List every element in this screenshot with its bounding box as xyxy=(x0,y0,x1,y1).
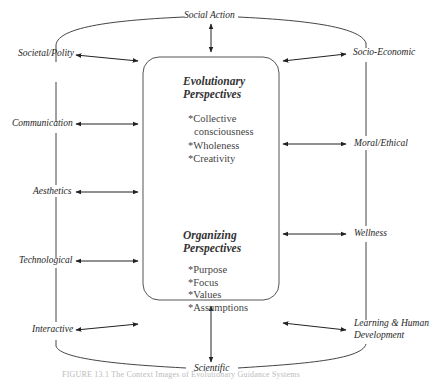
label-communication: Communication xyxy=(12,118,73,128)
outer-loop-top-right xyxy=(238,17,366,48)
title-line: Perspectives xyxy=(183,88,245,101)
list-item: *Creativity xyxy=(188,153,254,166)
organizing-perspectives-title: Organizing Perspectives xyxy=(183,229,241,255)
label-interactive: Interactive xyxy=(32,324,73,334)
label-moral-ethical: Moral/Ethical xyxy=(354,138,408,148)
label-aesthetics: Aesthetics xyxy=(33,186,72,196)
title-line: Organizing xyxy=(183,229,241,242)
list-item: *Collective xyxy=(188,113,254,126)
label-learning-human: Learning & Human xyxy=(354,318,429,328)
label-development: Development xyxy=(354,330,404,340)
label-socio-economic: Socio-Economic xyxy=(353,47,415,57)
figure-caption: FIGURE 13.1 The Context Images of Evolut… xyxy=(62,370,300,379)
label-social-action: Social Action xyxy=(184,10,235,20)
label-wellness: Wellness xyxy=(354,228,387,238)
list-item: consciousness xyxy=(188,126,254,139)
evolutionary-items: *Collective consciousness *Wholeness *Cr… xyxy=(188,113,254,165)
label-technological: Technological xyxy=(19,255,72,265)
title-line: Perspectives xyxy=(183,242,241,255)
list-item: *Focus xyxy=(188,277,248,290)
outer-loop-top-left xyxy=(56,17,184,62)
list-item: *Purpose xyxy=(188,264,248,277)
list-item: *Assumptions xyxy=(188,302,248,315)
evolutionary-perspectives-title: Evolutionary Perspectives xyxy=(183,75,245,101)
list-item: *Wholeness xyxy=(188,140,254,153)
label-societal-polity: Societal/Polity xyxy=(18,48,74,58)
title-line: Evolutionary xyxy=(183,75,245,88)
organizing-items: *Purpose *Focus *Values *Assumptions xyxy=(188,264,248,314)
list-item: *Values xyxy=(188,289,248,302)
